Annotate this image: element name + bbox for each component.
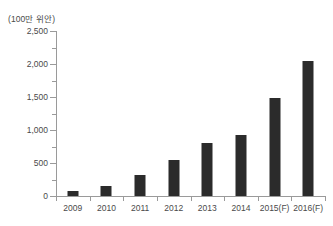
x-tick-label: 2016(F) [293,203,323,213]
y-tick-minor [52,81,56,82]
x-tick-label: 2012 [164,203,183,213]
bar [202,143,213,196]
bar [235,135,246,196]
y-tick-major [50,163,56,164]
x-tick [258,196,259,201]
bar [303,61,314,196]
y-tick-major [50,130,56,131]
bar [101,186,112,196]
bar [135,175,146,196]
y-tick-major [50,64,56,65]
y-tick-minor [52,48,56,49]
y-tick-major [50,97,56,98]
x-tick [157,196,158,201]
y-tick-minor [52,114,56,115]
y-tick-label: 2,000 [2,59,48,69]
x-tick-label: 2011 [131,203,149,213]
y-tick-label: 0 [2,191,48,201]
x-tick [224,196,225,201]
x-tick-label: 2014 [231,203,250,213]
y-axis-labels: 05001,0001,5002,0002,500 [0,0,48,226]
y-tick-label: 2,500 [2,26,48,36]
y-tick-minor [52,180,56,181]
x-tick [123,196,124,201]
x-tick [291,196,292,201]
y-tick-label: 500 [2,158,48,168]
x-tick-label: 2009 [63,203,82,213]
y-tick-minor [52,147,56,148]
x-tick [56,196,57,201]
bar [67,191,78,196]
y-axis-line [56,31,57,196]
x-tick-label: 2015(F) [260,203,290,213]
x-tick-label: 2010 [97,203,116,213]
y-tick-major [50,31,56,32]
y-tick-label: 1,500 [2,92,48,102]
x-tick [191,196,192,201]
x-tick-label: 2013 [198,203,217,213]
x-tick [90,196,91,201]
bar [168,160,179,196]
x-tick [325,196,326,201]
y-tick-label: 1,000 [2,125,48,135]
bar-chart: (100만 위안) 05001,0001,5002,0002,500 20092… [0,0,333,226]
bar [269,98,280,196]
